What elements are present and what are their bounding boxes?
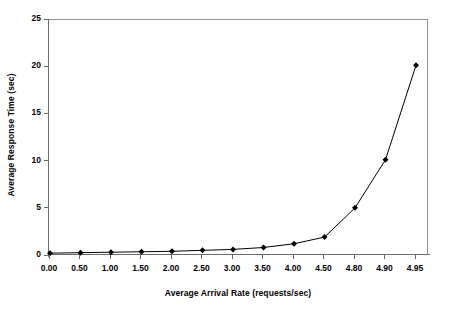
y-axis-title: Average Response Time (sec)	[0, 0, 22, 270]
y-axis-title-label: Average Response Time (sec)	[6, 73, 16, 196]
x-tick-mark	[232, 255, 233, 259]
x-tick-mark	[79, 255, 80, 259]
x-tick-mark	[110, 255, 111, 259]
plot-area	[48, 19, 428, 255]
x-tick-mark	[384, 255, 385, 259]
x-tick-mark	[49, 255, 50, 259]
y-tick-label: 20	[32, 60, 41, 70]
y-tick-label: 25	[32, 13, 41, 23]
series-line	[50, 65, 416, 253]
data-point-marker	[291, 241, 297, 247]
x-tick-mark	[201, 255, 202, 259]
x-tick-mark	[262, 255, 263, 259]
x-tick-mark	[293, 255, 294, 259]
x-axis-title: Average Arrival Rate (requests/sec)	[48, 288, 428, 298]
x-tick-mark	[171, 255, 172, 259]
x-tick-mark	[354, 255, 355, 259]
x-tick-mark	[323, 255, 324, 259]
data-point-marker	[200, 247, 206, 253]
data-point-marker	[261, 245, 267, 251]
data-point-marker	[169, 248, 175, 254]
y-tick-label: 15	[32, 107, 41, 117]
data-point-marker	[139, 249, 145, 255]
y-tick-label: 10	[32, 155, 41, 165]
data-point-marker	[230, 246, 236, 252]
x-tick-label: 4.95	[397, 263, 433, 273]
x-tick-mark	[415, 255, 416, 259]
line-chart: Average Response Time (sec) 0510152025 0…	[0, 0, 450, 312]
x-tick-mark	[140, 255, 141, 259]
series-layer	[49, 20, 429, 256]
data-point-marker	[383, 157, 389, 163]
data-point-marker	[413, 62, 419, 68]
y-tick-label: 0	[36, 249, 41, 259]
y-tick-label: 5	[36, 202, 41, 212]
